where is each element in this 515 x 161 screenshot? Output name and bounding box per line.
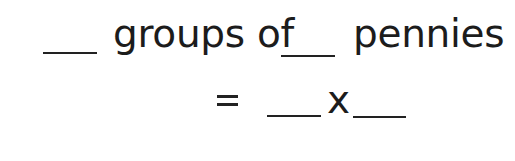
blank-factor-2[interactable] <box>353 116 406 118</box>
worksheet-page: groups of pennies x <box>0 0 515 161</box>
text-groups-of: groups of <box>113 14 294 53</box>
text-pennies: pennies <box>353 14 504 53</box>
equals-bar-bottom <box>217 103 238 106</box>
blank-number-of-groups[interactable] <box>43 52 97 54</box>
equals-bar-top <box>217 95 238 98</box>
blank-pennies-per-group[interactable] <box>281 55 335 57</box>
equals-sign <box>217 95 238 106</box>
blank-factor-1[interactable] <box>267 115 321 117</box>
times-sign: x <box>327 80 350 119</box>
